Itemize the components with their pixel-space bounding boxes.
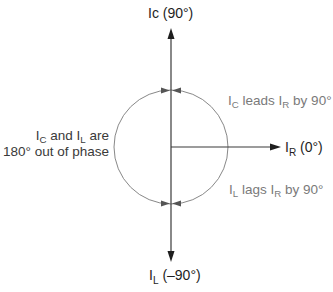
ic-label-angle: (90°): [159, 5, 193, 21]
ic-label: Ic (90°): [148, 5, 193, 21]
bottom-left-small-arrow-icon: [161, 201, 170, 207]
lead-text-2: leads I: [239, 93, 283, 108]
top-right-small-arrow-icon: [172, 88, 181, 94]
phase-annotation-line-1: IC and IL are: [3, 128, 109, 144]
lead-sub-1: C: [232, 99, 239, 110]
bottom-right-small-arrow-icon: [172, 201, 181, 207]
phase-text-3: are: [86, 128, 109, 143]
phase-annotation-line-2: 180° out of phase: [3, 144, 109, 160]
ir-label: IR (0°): [285, 139, 323, 155]
ic-label-main: Ic: [148, 5, 159, 21]
lead-text-3: by 90°: [289, 93, 331, 108]
ir-arrowhead-icon: [270, 144, 281, 151]
lag-text-3: by 90°: [281, 182, 323, 197]
lag-annotation: IL lags IR by 90°: [229, 182, 323, 198]
il-label-angle: (–90°): [159, 267, 201, 283]
ir-label-angle: (0°): [296, 139, 323, 155]
phase-text-2: and I: [47, 128, 81, 143]
lead-annotation: IC leads IR by 90°: [228, 93, 332, 109]
ic-arrowhead-icon: [168, 28, 175, 39]
phase-annotation: IC and IL are 180° out of phase: [3, 128, 109, 159]
il-arrowhead-icon: [168, 251, 175, 262]
il-label: IL (–90°): [149, 267, 201, 283]
top-left-small-arrow-icon: [161, 88, 170, 94]
lag-text-2: lags I: [238, 182, 274, 197]
